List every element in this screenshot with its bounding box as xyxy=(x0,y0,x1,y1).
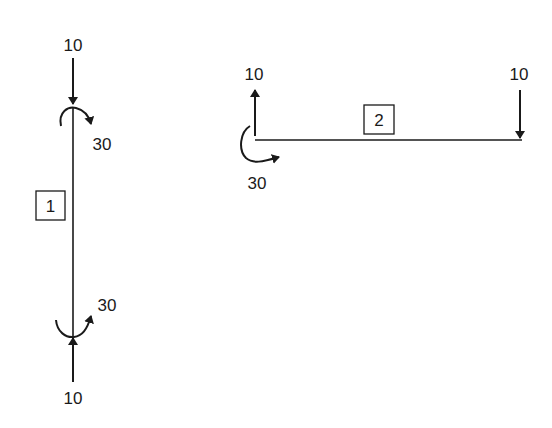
left-moment-arrow-icon xyxy=(241,126,279,162)
member-2-id: 2 xyxy=(374,111,383,130)
member-2: 2 10 30 10 xyxy=(241,65,528,193)
member-1-label-box: 1 xyxy=(36,191,65,220)
left-moment-value: 30 xyxy=(248,174,267,193)
member-1: 1 10 30 30 10 xyxy=(36,36,116,408)
member-1-id: 1 xyxy=(46,197,55,216)
right-force-value: 10 xyxy=(510,65,529,84)
free-body-diagram: 1 10 30 30 10 2 10 30 10 xyxy=(0,0,552,428)
top-moment-arrow-icon xyxy=(60,108,91,126)
top-force-value: 10 xyxy=(64,36,83,55)
bottom-force-value: 10 xyxy=(64,389,83,408)
member-2-label-box: 2 xyxy=(364,105,394,134)
top-moment-value: 30 xyxy=(93,135,112,154)
left-force-value: 10 xyxy=(245,65,264,84)
bottom-moment-value: 30 xyxy=(98,296,117,315)
